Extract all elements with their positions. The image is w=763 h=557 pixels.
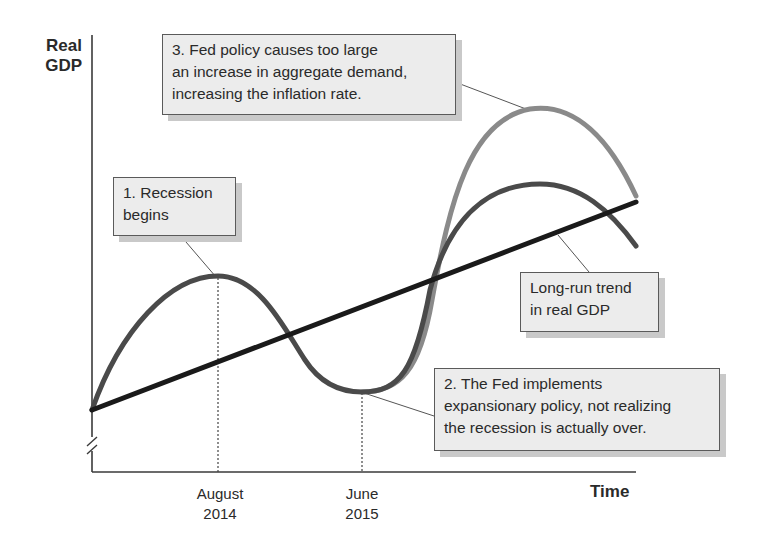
callout-text: increasing the inflation rate. <box>172 83 446 105</box>
tick-august-2014: August 2014 <box>170 484 270 524</box>
callout-text: expansionary policy, not realizing <box>444 395 710 417</box>
tick-year: 2014 <box>170 504 270 524</box>
x-axis-label: Time <box>590 482 629 502</box>
callout-fed-policy: 3. Fed policy causes too large an increa… <box>162 34 456 115</box>
callout-text: the recession is actually over. <box>444 417 710 439</box>
tick-june-2015: June 2015 <box>312 484 412 524</box>
callout-text: Long-run trend <box>530 277 649 299</box>
tick-month: August <box>170 484 270 504</box>
callout-text: in real GDP <box>530 299 649 321</box>
callout-text: begins <box>123 204 226 226</box>
callout-text: 2. The Fed implements <box>444 373 710 395</box>
y-axis-label: Real GDP <box>38 36 82 76</box>
callout-text: 3. Fed policy causes too large <box>172 39 446 61</box>
leader-recession <box>180 235 216 277</box>
y-axis-label-line1: Real <box>38 36 82 56</box>
tick-year: 2015 <box>312 504 412 524</box>
leader-fed-implements <box>364 393 434 416</box>
fed-stimulus-gdp-curve <box>362 108 636 392</box>
callout-text: 1. Recession <box>123 182 226 204</box>
callout-text: an increase in aggregate demand, <box>172 61 446 83</box>
callout-recession-begins: 1. Recession begins <box>113 177 236 236</box>
callout-fed-implements: 2. The Fed implements expansionary polic… <box>434 368 720 451</box>
leader-trend <box>558 235 589 272</box>
tick-month: June <box>312 484 412 504</box>
callout-long-run-trend: Long-run trend in real GDP <box>520 272 659 332</box>
y-axis-label-line2: GDP <box>38 56 82 76</box>
leader-fed-policy <box>455 82 526 109</box>
